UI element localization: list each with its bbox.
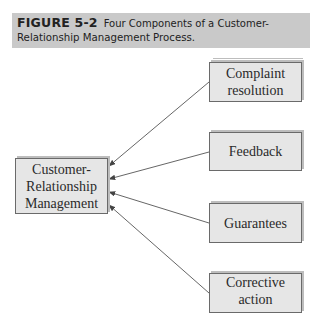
- arrow-complaint: [109, 82, 209, 166]
- arrow-feedback: [109, 152, 209, 179]
- component-label: action: [238, 292, 272, 307]
- component-label: Complaint: [226, 66, 285, 81]
- component-label: Guarantees: [224, 215, 287, 232]
- crm-line3: Management: [25, 196, 98, 211]
- crm-line1: Customer-: [32, 162, 91, 177]
- component-label: Feedback: [229, 143, 283, 160]
- component-complaint-resolution: Complaint resolution: [209, 62, 302, 102]
- component-label: Corrective: [226, 275, 285, 290]
- crm-line2: Relationship: [26, 179, 97, 194]
- component-feedback: Feedback: [209, 132, 302, 171]
- component-guarantees: Guarantees: [209, 203, 302, 243]
- crm-node: Customer- Relationship Management: [15, 158, 108, 214]
- component-label: resolution: [228, 83, 284, 98]
- component-corrective-action: Corrective action: [209, 273, 302, 313]
